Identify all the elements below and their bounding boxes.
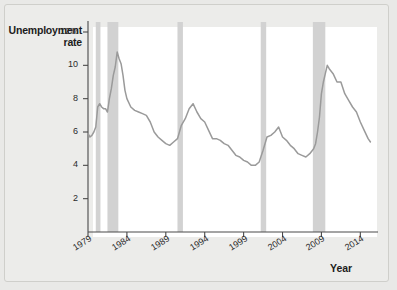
unemployment-line-series: [88, 52, 370, 165]
y-axis-tick-label: 8: [36, 93, 78, 103]
data-line: [88, 52, 370, 165]
recession-band: [313, 22, 325, 232]
recession-band: [261, 22, 266, 232]
y-axis-tick-label: 6: [36, 126, 78, 136]
y-axis-tick-label: 10: [36, 59, 78, 69]
y-axis-tick-label: 4: [36, 159, 78, 169]
y-axis-tick-label: 12%: [36, 26, 78, 36]
chart-axes: [83, 21, 378, 237]
recession-bands-group: [96, 22, 326, 232]
y-axis-tick-label: 2: [36, 193, 78, 203]
